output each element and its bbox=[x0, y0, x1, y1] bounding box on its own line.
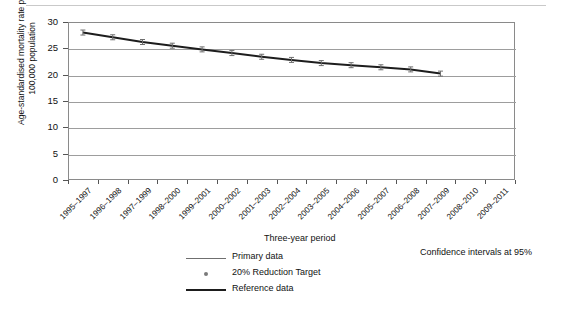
y-axis-tick-label: 20 bbox=[28, 69, 58, 80]
legend-line-swatch bbox=[186, 258, 226, 259]
y-axis-tick-label: 30 bbox=[28, 16, 58, 27]
legend-item-label: Reference data bbox=[232, 283, 294, 293]
x-axis-tick-mark bbox=[426, 180, 427, 184]
page-top-rule bbox=[26, 5, 546, 6]
data-series-primary bbox=[68, 22, 515, 180]
x-axis-tick-mark bbox=[68, 180, 69, 184]
x-axis-tick-mark bbox=[217, 180, 218, 184]
legend-item-label: Primary data bbox=[232, 251, 283, 261]
x-axis-tick-mark bbox=[128, 180, 129, 184]
x-axis-tick-mark bbox=[157, 180, 158, 184]
x-axis-tick-mark bbox=[98, 180, 99, 184]
confidence-interval-note: Confidence intervals at 95% bbox=[420, 247, 532, 257]
y-axis-tick-label: 10 bbox=[28, 121, 58, 132]
x-axis-tick-mark bbox=[396, 180, 397, 184]
x-axis-tick-mark bbox=[485, 180, 486, 184]
x-axis-tick-mark bbox=[515, 180, 516, 184]
x-axis-tick-mark bbox=[366, 180, 367, 184]
x-axis-tick-mark bbox=[306, 180, 307, 184]
x-axis-tick-mark bbox=[277, 180, 278, 184]
chart-container: Age-standardised mortality rate per 100,… bbox=[0, 0, 569, 309]
x-axis-tick-mark bbox=[247, 180, 248, 184]
x-axis-tick-mark bbox=[187, 180, 188, 184]
series-line-primary bbox=[83, 33, 441, 74]
y-axis-tick-label: 5 bbox=[28, 148, 58, 159]
y-axis-tick-label: 25 bbox=[28, 42, 58, 53]
legend-item-label: 20% Reduction Target bbox=[232, 267, 320, 277]
x-axis-title: Three-year period bbox=[264, 233, 336, 243]
x-axis-tick-mark bbox=[455, 180, 456, 184]
legend-thick-line-swatch bbox=[186, 289, 226, 291]
y-axis-tick-label: 0 bbox=[28, 174, 58, 185]
y-axis-title-line1: Age-standardised mortality rate per bbox=[16, 0, 27, 149]
y-axis-tick-label: 15 bbox=[28, 95, 58, 106]
x-axis-tick-mark bbox=[336, 180, 337, 184]
legend-dot-swatch bbox=[204, 272, 208, 276]
